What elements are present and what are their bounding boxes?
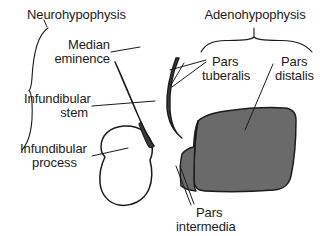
label-median-eminence-line2: eminence [0,52,110,66]
label-infundibular-process-line2: process [32,156,77,170]
label-pars-distalis-line2: distalis [275,69,314,83]
label-infundibular-stem-line2: stem [0,106,88,120]
label-pars-tuberalis-line2: tuberalis [202,69,250,83]
pars-distalis-shape [194,108,296,192]
label-infundibular-stem-line1: Infundibular [24,92,91,106]
leader-median-eminence [111,47,140,52]
label-pars-tuberalis-line1: Pars [212,55,238,69]
anatomical-diagram: Neurohypophysis Median eminence Infundib… [0,0,335,236]
label-neurohypophysis: Neurohypophysis [27,8,126,22]
adenohypophysis-brace [201,28,312,52]
label-pars-intermedia-line1: Pars [196,206,222,220]
label-pars-intermedia-line2: intermedia [176,220,236,234]
label-pars-distalis-line1: Pars [281,55,307,69]
label-infundibular-process-line1: Infundibular [20,142,87,156]
label-adenohypophysis: Adenohypophysis [196,8,314,22]
leader-infundibular-stem [92,101,155,106]
label-median-eminence-line1: Median [0,38,110,52]
